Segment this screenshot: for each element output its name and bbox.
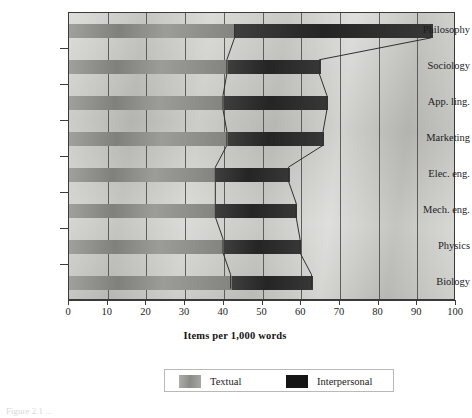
y-axis-label-elec-eng: Elec. eng. [408,168,470,179]
x-axis-tick-70 [339,300,340,305]
x-axis-label-70: 70 [322,306,356,318]
x-axis-tick-30 [184,300,185,305]
x-axis-tick-100 [455,300,456,305]
bar-row [69,60,454,74]
legend-entry-textual: Textual [179,374,241,389]
x-axis-label-0: 0 [51,306,85,318]
bar-row [69,96,454,110]
x-axis-tick-50 [262,300,263,305]
x-axis-tick-10 [107,300,108,305]
x-axis-label-60: 60 [283,306,317,318]
bar-segment-interpersonal [228,60,321,74]
bar-segment-interpersonal [224,96,328,110]
y-axis-label-biology: Biology [408,276,470,287]
bar-segment-textual [69,204,216,218]
bar-row [69,240,454,254]
x-axis-label-80: 80 [361,306,395,318]
x-axis-label-40: 40 [206,306,240,318]
plot-area [68,12,455,300]
bar-segment-interpersonal [224,240,301,254]
y-axis-tick [60,264,69,265]
bar-row [69,204,454,218]
y-axis-label-philosophy: Philosophy [408,24,470,35]
y-axis-label-sociology: Sociology [408,60,470,71]
y-axis-tick [60,228,69,229]
bar-series-group [69,13,454,299]
legend: Textual Interpersonal [164,369,394,392]
textual-swatch-icon [179,375,201,388]
bar-row [69,24,454,38]
x-axis-title: Items per 1,000 words [0,330,470,341]
x-axis-tick-80 [378,300,379,305]
bar-segment-interpersonal [235,24,432,38]
legend-entry-interpersonal: Interpersonal [286,374,372,389]
y-axis-tick [60,84,69,85]
bar-segment-interpersonal [216,204,297,218]
x-axis-tick-60 [300,300,301,305]
bar-segment-interpersonal [232,276,313,290]
bar-segment-interpersonal [228,132,325,146]
x-axis-tick-90 [416,300,417,305]
legend-label-interpersonal: Interpersonal [317,375,372,388]
bar-segment-textual [69,60,228,74]
y-axis-label-mech-eng: Mech. eng. [408,204,470,215]
y-axis-tick [60,192,69,193]
y-axis-tick [60,156,69,157]
y-axis-label-app-ling: App. ling. [408,96,470,107]
x-axis-label-20: 20 [128,306,162,318]
bar-segment-textual [69,132,228,146]
bar-segment-textual [69,168,216,182]
bar-row [69,168,454,182]
x-axis-tick-0 [68,300,69,305]
legend-label-textual: Textual [210,375,241,388]
bar-row [69,276,454,290]
x-axis-label-50: 50 [245,306,279,318]
bar-segment-interpersonal [216,168,290,182]
bar-row [69,132,454,146]
y-axis-tick [60,120,69,121]
bar-segment-textual [69,240,224,254]
interpersonal-swatch-icon [286,375,308,388]
x-axis-label-10: 10 [90,306,124,318]
bar-segment-textual [69,24,235,38]
figure-caption: Figure 2.1 ... [6,406,336,416]
x-axis-label-30: 30 [167,306,201,318]
x-axis-tick-20 [145,300,146,305]
x-axis-label-100: 100 [438,306,472,318]
y-axis-label-physics: Physics [408,240,470,251]
x-axis-tick-40 [223,300,224,305]
y-axis-tick [60,48,69,49]
x-axis-label-90: 90 [399,306,433,318]
y-axis-label-marketing: Marketing [408,132,470,143]
bar-segment-textual [69,96,224,110]
bar-segment-textual [69,276,232,290]
